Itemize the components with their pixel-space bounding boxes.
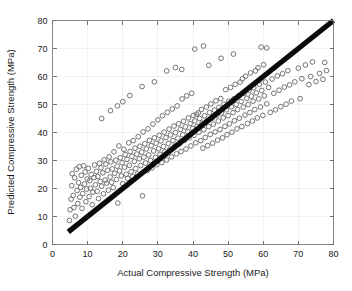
y-axis-tick-labels: 01020304050607080 (37, 16, 47, 250)
x-tick-label: 70 (293, 249, 303, 259)
y-tick-label: 80 (37, 16, 47, 26)
x-tick-label: 30 (153, 249, 163, 259)
y-tick-label: 50 (37, 100, 47, 110)
x-tick-label: 10 (83, 249, 93, 259)
plot-canvas: 01020304050607080 01020304050607080 Actu… (0, 0, 352, 291)
x-tick-label: 0 (50, 249, 55, 259)
scatter-plot-figure: 01020304050607080 01020304050607080 Actu… (0, 0, 352, 291)
x-axis-title: Actual Compressive Strength (MPa) (117, 267, 269, 278)
y-tick-label: 30 (37, 156, 47, 166)
y-tick-label: 60 (37, 72, 47, 82)
y-tick-label: 20 (37, 184, 47, 194)
y-tick-label: 70 (37, 44, 47, 54)
x-tick-label: 50 (223, 249, 233, 259)
x-tick-label: 40 (188, 249, 198, 259)
x-tick-label: 20 (118, 249, 128, 259)
x-tick-label: 80 (328, 249, 338, 259)
x-tick-label: 60 (258, 249, 268, 259)
y-tick-label: 0 (42, 240, 47, 250)
y-tick-label: 10 (37, 212, 47, 222)
y-axis-title: Predicted Compressive Strength (MPa) (5, 49, 16, 214)
y-tick-label: 40 (37, 128, 47, 138)
